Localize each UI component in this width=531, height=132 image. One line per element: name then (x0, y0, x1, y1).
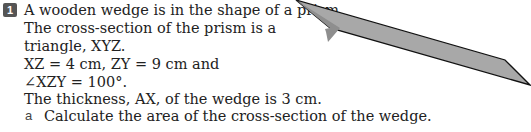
wedge-top-face (296, 0, 530, 85)
wedge-prism-diagram (0, 0, 531, 132)
